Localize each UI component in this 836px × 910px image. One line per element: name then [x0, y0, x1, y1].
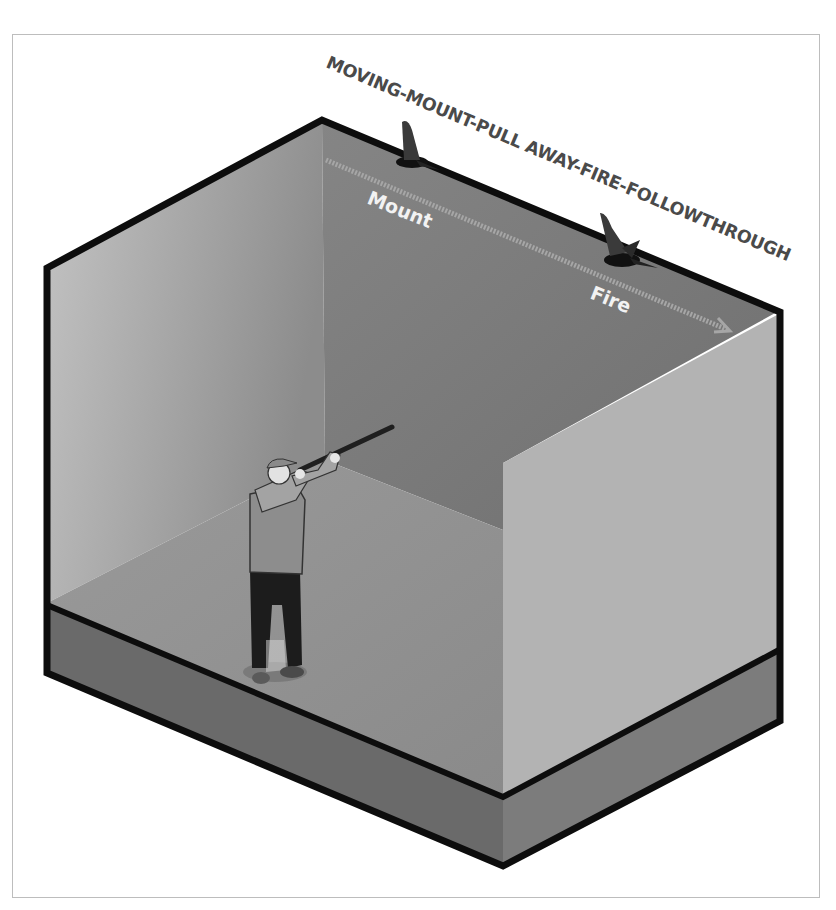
bird-at-mount-icon: [396, 121, 440, 170]
box-diagram: MOVING-MOUNT-PULL AWAY-FIRE-FOLLOWTHROUG…: [0, 0, 836, 910]
